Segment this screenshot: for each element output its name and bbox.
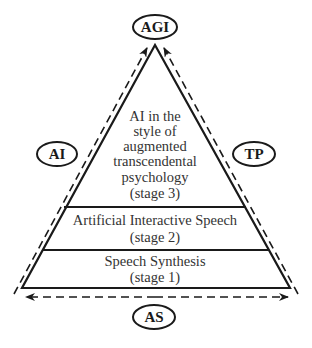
stage-2-block: Artificial Interactive Speech (stage 2) [73,212,238,246]
stage-3-block: AI in the style of augmented transcenden… [113,108,197,202]
stage-3-line-6: (stage 3) [130,185,180,202]
node-as: AS [133,305,175,329]
stage-1-line-1: Speech Synthesis [104,253,205,269]
agi-label: AGI [141,19,170,35]
stage-2-line-2: (stage 2) [130,229,180,246]
node-tp: TP [233,142,275,166]
stage-3-line-3: augmented [123,138,187,154]
as-label: AS [144,309,163,325]
stage-1-block: Speech Synthesis (stage 1) [104,253,205,286]
pyramid-diagram: AGI AI TP AS AI in the style of augmente… [0,0,312,348]
stage-1-line-2: (stage 1) [130,269,180,286]
tp-label: TP [244,146,263,162]
node-agi: AGI [133,15,177,39]
stage-2-line-1: Artificial Interactive Speech [73,212,238,228]
stage-3-line-5: psychology [122,169,190,185]
stage-3-line-1: AI in the [129,108,181,124]
node-ai: AI [37,142,77,166]
stage-3-line-2: style of [133,123,176,139]
ai-label: AI [49,146,66,162]
stage-3-line-4: transcendental [113,153,197,169]
